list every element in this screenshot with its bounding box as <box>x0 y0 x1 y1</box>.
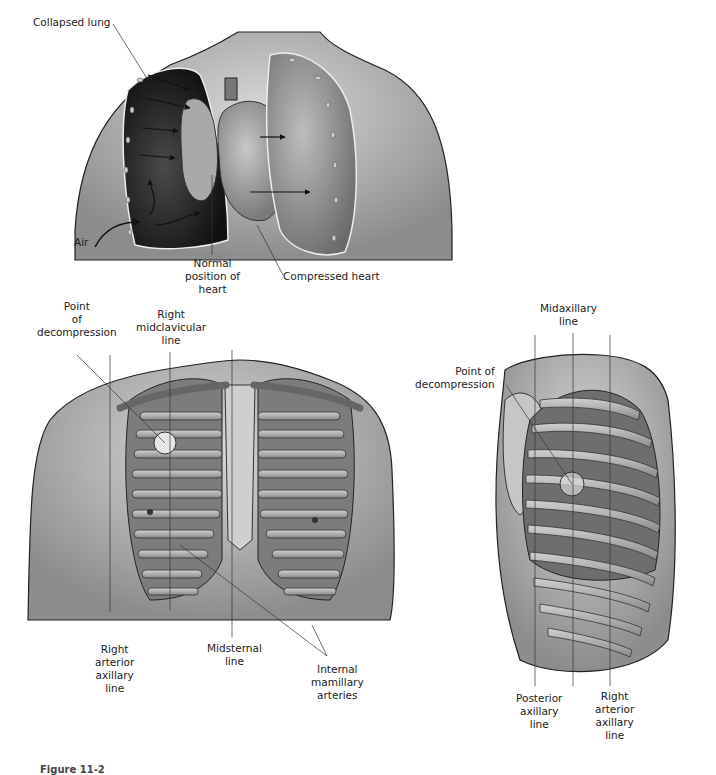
side-ribcage <box>496 354 675 671</box>
label-front-point-of-decompression: Point of decompression <box>37 300 117 339</box>
label-midaxillary-line: Midaxillary line <box>540 302 597 328</box>
label-front-right-anterior-axillary-line: Right arterior axillary line <box>95 643 134 695</box>
top-torso <box>75 32 452 260</box>
label-air: Air <box>74 236 88 249</box>
label-side-point-of-decompression: Point of decompression <box>415 365 495 391</box>
label-collapsed-lung: Collapsed lung <box>33 16 111 29</box>
label-normal-position-of-heart: Normal position of heart <box>185 257 240 296</box>
label-posterior-axillary-line: Posterior axillary line <box>516 692 562 731</box>
label-right-midclavicular-line: Right midclavicular line <box>136 308 206 347</box>
front-ribcage <box>28 360 394 620</box>
label-internal-mamillary-arteries: Internal mamillary arteries <box>311 663 364 702</box>
figure-caption: Figure 11-2 <box>40 764 105 775</box>
label-midsternal-line: Midsternal line <box>207 642 262 668</box>
label-compressed-heart: Compressed heart <box>283 270 380 283</box>
label-side-right-anterior-axillary-line: Right arterior axillary line <box>595 690 634 742</box>
